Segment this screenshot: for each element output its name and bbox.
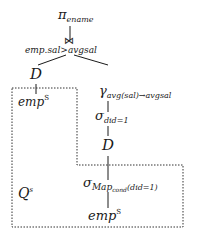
right-emp-sup: S bbox=[116, 208, 121, 216]
left-d-node: D bbox=[30, 67, 42, 82]
groupby-node: γavg(sal)→avgsal bbox=[99, 84, 171, 97]
left-emp-sup: S bbox=[44, 94, 49, 102]
map-cond-label: cond bbox=[112, 186, 127, 193]
sigma-symbol: σ bbox=[83, 175, 92, 190]
left-emp-label: emp bbox=[18, 95, 44, 109]
project-node: πename bbox=[58, 8, 94, 21]
gamma-symbol: γ bbox=[99, 83, 107, 98]
right-emp-node: empS bbox=[88, 209, 121, 222]
groupby-expr: avg(sal)→avgsal bbox=[107, 91, 172, 100]
qs-region-label: Qs bbox=[18, 186, 33, 200]
map-cond-expr: (did=1) bbox=[127, 183, 158, 192]
select-cond: did=1 bbox=[104, 116, 129, 125]
left-emp-node: empS bbox=[18, 96, 49, 108]
qs-sup: s bbox=[29, 186, 33, 194]
right-emp-label: emp bbox=[88, 208, 116, 223]
join-condition: emp.sal>avgsal bbox=[25, 46, 97, 55]
project-attr: ename bbox=[67, 15, 94, 24]
right-d-node: D bbox=[102, 138, 114, 153]
sigma-symbol: σ bbox=[95, 108, 104, 123]
map-label: Map bbox=[92, 182, 112, 192]
qs-label: Q bbox=[18, 185, 29, 201]
map-select-node: σMapcond(did=1) bbox=[83, 176, 158, 189]
select-node: σdid=1 bbox=[95, 109, 128, 122]
pi-symbol: π bbox=[58, 7, 67, 22]
